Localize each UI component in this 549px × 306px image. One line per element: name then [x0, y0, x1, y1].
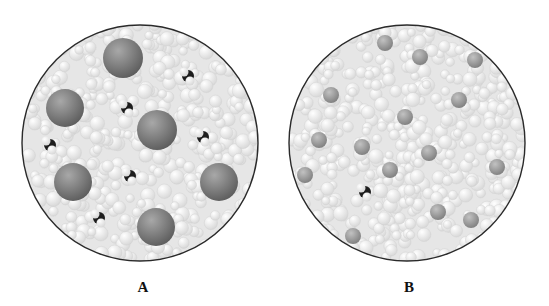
- panel-a: A: [0, 0, 274, 306]
- panel-b-illustration: [275, 0, 549, 306]
- panel-a-illustration: [0, 0, 274, 306]
- panel-b-label: B: [389, 279, 429, 296]
- panel-b: B: [275, 0, 549, 306]
- panel-a-label: A: [123, 279, 163, 296]
